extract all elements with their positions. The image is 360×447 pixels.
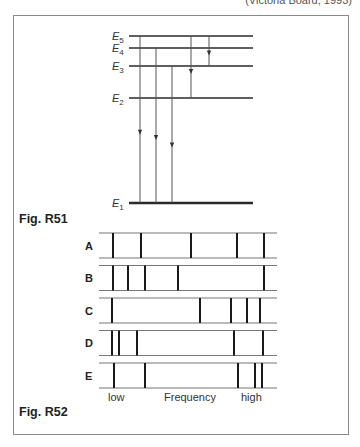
energy-level-label: E2 bbox=[112, 92, 124, 107]
spectrum-label: E bbox=[85, 370, 92, 382]
arrow-down-icon bbox=[207, 50, 211, 55]
arrow-down-icon bbox=[189, 69, 193, 74]
energy-level-diagram: E5E4E3E2E1 bbox=[112, 30, 253, 212]
fig-r51-caption: Fig. R51 bbox=[19, 212, 68, 226]
axis-low-label: low bbox=[108, 391, 125, 403]
spectrum-label: B bbox=[85, 272, 93, 284]
fig-r52-caption: Fig. R52 bbox=[19, 405, 68, 419]
arrow-down-icon bbox=[170, 142, 174, 147]
spectrum-label: A bbox=[85, 240, 93, 252]
energy-level-label: E1 bbox=[112, 197, 124, 212]
spectrum-label: C bbox=[85, 305, 93, 317]
arrow-down-icon bbox=[138, 130, 142, 135]
spectra-diagram: ABCDE bbox=[85, 233, 277, 388]
spectrum-label: D bbox=[85, 337, 93, 349]
axis-high-label: high bbox=[241, 391, 262, 403]
axis-frequency-label: Frequency bbox=[164, 391, 216, 403]
arrow-down-icon bbox=[154, 135, 158, 140]
energy-level-label: E3 bbox=[112, 60, 124, 75]
